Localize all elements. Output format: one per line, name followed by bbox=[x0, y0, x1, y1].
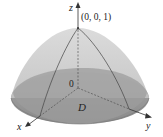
paraboloid-diagram: z (0, 0, 1) 0 D x y bbox=[0, 0, 163, 137]
apex-coordinate-label: (0, 0, 1) bbox=[81, 13, 111, 23]
y-axis-label: y bbox=[146, 121, 150, 131]
apex-point bbox=[77, 27, 79, 29]
z-axis-label: z bbox=[69, 3, 73, 13]
x-axis-arrowhead bbox=[25, 122, 31, 128]
x-axis-label: x bbox=[17, 122, 21, 132]
region-D-label: D bbox=[78, 102, 86, 113]
origin-label: 0 bbox=[69, 80, 74, 90]
y-axis-arrowhead bbox=[145, 113, 152, 119]
z-axis-arrowhead bbox=[76, 2, 81, 8]
